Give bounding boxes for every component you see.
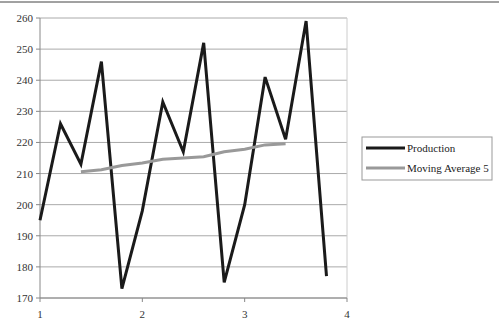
y-tick-label: 210 [17, 168, 34, 180]
x-tick-label: 3 [242, 308, 248, 320]
y-axis: 170180190200210220230240250260 [17, 12, 41, 304]
y-tick-label: 180 [17, 261, 34, 273]
x-tick-label: 1 [37, 308, 43, 320]
y-tick-label: 200 [17, 199, 34, 211]
y-tick-label: 260 [17, 12, 34, 24]
y-tick-label: 240 [17, 74, 34, 86]
x-tick-label: 2 [140, 308, 146, 320]
plot-series [40, 21, 327, 289]
legend-label-production: Production [407, 142, 456, 154]
y-tick-label: 220 [17, 136, 34, 148]
legend-label-moving-average: Moving Average 5 [407, 162, 489, 174]
y-tick-label: 250 [17, 43, 34, 55]
line-chart: 170180190200210220230240250260 1234 Prod… [0, 0, 499, 330]
legend: Production Moving Average 5 [362, 137, 492, 180]
x-axis: 1234 [37, 298, 350, 320]
y-tick-label: 230 [17, 105, 34, 117]
x-tick-label: 4 [344, 308, 350, 320]
production-line [40, 21, 327, 289]
y-tick-label: 170 [17, 292, 34, 304]
y-tick-label: 190 [17, 230, 34, 242]
